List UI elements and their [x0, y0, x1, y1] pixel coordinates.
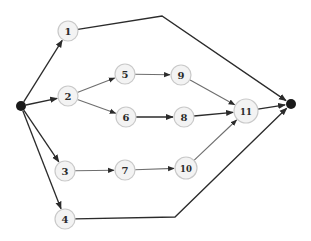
edge-1-to-end [78, 16, 286, 101]
node-11: 11 [234, 99, 258, 123]
node-label: 2 [65, 91, 72, 102]
node-label: 8 [181, 112, 188, 123]
node-2: 2 [58, 86, 78, 106]
edge-2-to-5 [77, 78, 114, 92]
edge-10-to-11 [194, 120, 237, 160]
node-5: 5 [115, 64, 135, 84]
node-label: 11 [240, 107, 252, 117]
edge-8-to-11 [194, 112, 233, 116]
start-node [16, 101, 26, 111]
node-10: 10 [175, 157, 197, 179]
node-label: 5 [122, 69, 129, 80]
node-8: 8 [174, 107, 194, 127]
edge-9-to-11 [190, 80, 235, 105]
node-label: 1 [65, 26, 72, 37]
end-node [286, 99, 296, 109]
node-1: 1 [58, 21, 78, 41]
node-label: 9 [178, 70, 185, 81]
node-label: 3 [62, 166, 69, 177]
activity-network-diagram: 1234567891011 [0, 0, 311, 241]
start-terminal-dot [16, 101, 26, 111]
end-terminal-dot [286, 99, 296, 109]
edge-3-to-7 [75, 170, 114, 171]
edge-11-to-end [258, 105, 285, 109]
edge-start-to-4 [23, 111, 61, 209]
edge-start-to-2 [26, 98, 57, 105]
nodes-layer: 1234567891011 [16, 21, 296, 229]
node-label: 4 [62, 214, 69, 225]
edge-2-to-6 [77, 99, 115, 113]
edge-start-to-1 [24, 40, 63, 102]
edge-5-to-9 [135, 74, 170, 75]
node-7: 7 [115, 160, 135, 180]
edge-7-to-10 [135, 168, 174, 169]
node-6: 6 [116, 107, 136, 127]
node-label: 10 [180, 164, 192, 174]
node-label: 6 [123, 112, 130, 123]
node-label: 7 [122, 165, 129, 176]
edge-start-to-3 [24, 110, 59, 162]
node-3: 3 [55, 161, 75, 181]
node-4: 4 [55, 209, 75, 229]
node-9: 9 [171, 65, 191, 85]
